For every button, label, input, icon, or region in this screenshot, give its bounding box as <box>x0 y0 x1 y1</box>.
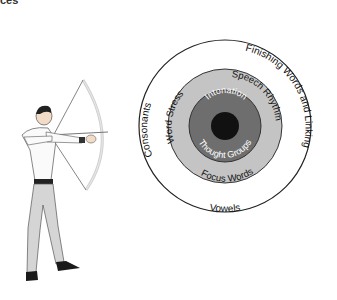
label-vowels: Vowels <box>209 201 241 213</box>
archer-icon <box>22 80 108 281</box>
pronunciation-target-diagram: Finishing Words and Linking Consonants V… <box>0 0 337 300</box>
bullseye <box>211 112 239 140</box>
